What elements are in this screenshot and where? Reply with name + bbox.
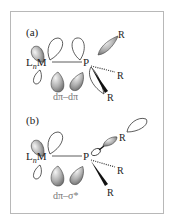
r-label-a2: R xyxy=(117,70,124,81)
panel-b-label: (b) xyxy=(26,114,39,127)
panel-b: (b) LnM P R R R dπ–σ* xyxy=(26,114,147,201)
panel-a: (a) LnM P R R R dπ–dπ xyxy=(26,26,125,103)
metal-label-b: LnM xyxy=(26,150,47,165)
panel-a-label: (a) xyxy=(26,26,39,39)
r-label-a3: R xyxy=(107,92,114,103)
phosphorus-label-b: P xyxy=(83,150,89,162)
metal-label-a: LnM xyxy=(26,56,47,71)
phosphorus-label-a: P xyxy=(83,56,89,68)
r-label-b2: R xyxy=(117,165,124,176)
caption-b: dπ–σ* xyxy=(53,190,78,201)
caption-a: dπ–dπ xyxy=(53,91,78,102)
r-label-b3: R xyxy=(107,187,114,198)
orbital-diagram: (a) LnM P R R R dπ–dπ (b) xyxy=(0,0,174,224)
pr-bonds-b xyxy=(91,160,115,186)
r-label-a1: R xyxy=(118,29,125,40)
r-label-b1: R xyxy=(119,132,126,143)
pr-bonds-a xyxy=(89,36,118,94)
phosphorus-lobe-b xyxy=(68,164,86,187)
